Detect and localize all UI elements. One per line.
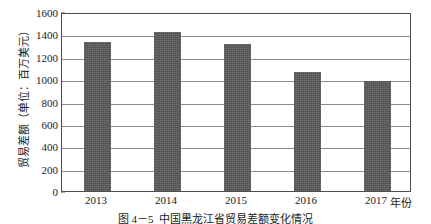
figure-caption-text: 中国黑龙江省贸易差额变化情况 [159, 213, 313, 224]
y-axis-tick-label: 1200 [20, 52, 58, 64]
x-axis-tick-label: 2015 [225, 194, 247, 206]
bar [84, 42, 111, 191]
y-axis-tick-label: 0 [20, 186, 58, 198]
bar [154, 32, 181, 191]
y-axis-tick-label: 1600 [20, 7, 58, 19]
x-axis-tick-label: 2013 [85, 194, 107, 206]
figure-caption-number: 图 4－5 [118, 213, 154, 224]
x-axis-tick-label: 2016 [295, 194, 317, 206]
x-axis-tick-label: 2017 [365, 194, 387, 206]
bar [364, 81, 391, 191]
bar [294, 72, 321, 191]
x-axis-tick-label: 2014 [155, 194, 177, 206]
y-axis-tick-label: 600 [20, 119, 58, 131]
gridline [62, 36, 410, 37]
bar-chart-figure: 贸易差额（单位：百万美元） 02004006008001000120014001… [0, 0, 431, 224]
y-axis-tick-label: 800 [20, 97, 58, 109]
figure-caption: 图 4－5中国黑龙江省贸易差额变化情况 [0, 210, 431, 224]
y-axis-tick-label: 1400 [20, 29, 58, 41]
plot-area [61, 13, 411, 192]
y-axis-tick-label: 400 [20, 141, 58, 153]
y-axis-tick-label: 1000 [20, 74, 58, 86]
bar [224, 44, 251, 191]
x-axis-tick-labels: 20132014201520162017 [61, 194, 411, 210]
y-axis-tick-labels: 02004006008001000120014001600 [20, 13, 58, 192]
x-axis-title: 年份 [390, 194, 412, 210]
y-axis-tick-label: 200 [20, 164, 58, 176]
